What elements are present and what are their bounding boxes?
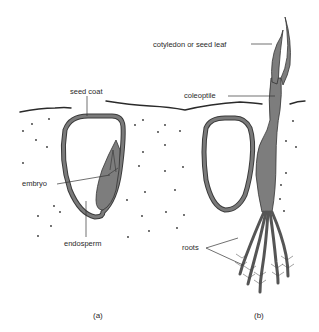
seed-panel-a [63,116,123,217]
caption-a: (a) [93,311,103,320]
label-seed-coat: seed coat [70,87,103,96]
coleoptile-shape [256,78,281,212]
seed-germination-diagram: seed coat embryo endosperm [0,0,319,332]
roots [235,212,294,292]
label-embryo: embryo [22,179,47,188]
label-roots: roots [182,243,199,252]
cotyledon-shape [281,17,290,85]
label-endosperm: endosperm [64,239,102,248]
soil-surface [20,101,305,112]
caption-b: (b) [254,311,264,320]
label-coleoptile: coleoptile [184,91,216,100]
label-cotyledon: cotyledon or seed leaf [153,40,227,49]
